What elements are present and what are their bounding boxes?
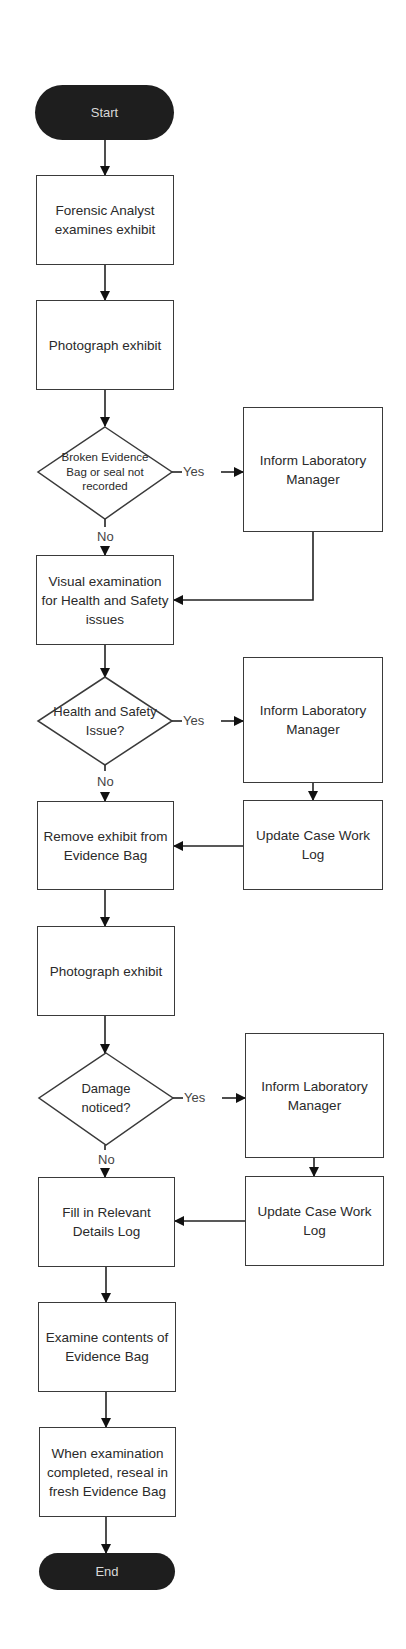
start-terminal: Start [35,85,174,140]
process-examine-exhibit: Forensic Analyst examines exhibit [36,175,174,265]
side-inform-manager-2: Inform Laboratory Manager [243,657,383,783]
no-label-2: No [97,774,114,789]
process-reseal: When examination completed, reseal in fr… [39,1427,176,1517]
process-examine-contents: Examine contents of Evidence Bag [38,1302,176,1392]
side-label: Inform Laboratory Manager [248,451,378,489]
end-label: End [95,1562,118,1581]
no-label-1: No [97,529,114,544]
process-label: Photograph exhibit [50,962,163,981]
arrow-s1-to-p3 [174,532,313,600]
process-label: Forensic Analyst examines exhibit [41,201,169,239]
decision-label-1: Broken Evidence Bag or seal not recorded [50,437,160,507]
side-label: Inform Laboratory Manager [248,701,378,739]
end-terminal: End [39,1553,175,1590]
process-photograph-exhibit-1: Photograph exhibit [36,300,174,390]
process-remove-exhibit: Remove exhibit from Evidence Bag [37,801,174,890]
side-label: Update Case Work Log [248,826,378,864]
side-inform-manager-3: Inform Laboratory Manager [245,1033,384,1158]
process-label: Visual examination for Health and Safety… [41,572,169,629]
process-label: Fill in Relevant Details Log [43,1203,170,1241]
yes-label-1: Yes [183,464,204,479]
process-visual-examination: Visual examination for Health and Safety… [36,555,174,645]
yes-label-3: Yes [184,1090,205,1105]
side-label: Update Case Work Log [250,1202,379,1240]
side-inform-manager-1: Inform Laboratory Manager [243,407,383,532]
process-label: Photograph exhibit [49,336,162,355]
yes-label-2: Yes [183,713,204,728]
no-label-3: No [98,1152,115,1167]
side-update-case-log-1: Update Case Work Log [243,800,383,890]
process-label: Examine contents of Evidence Bag [43,1328,171,1366]
process-fill-details-log: Fill in Relevant Details Log [38,1177,175,1267]
decision-label-3: Damage noticed? [58,1068,154,1128]
side-update-case-log-2: Update Case Work Log [245,1176,384,1266]
start-label: Start [91,103,118,122]
process-label: When examination completed, reseal in fr… [44,1444,171,1501]
process-label: Remove exhibit from Evidence Bag [42,827,169,865]
decision-label-2: Health and Safety Issue? [48,690,162,752]
process-photograph-exhibit-2: Photograph exhibit [37,926,175,1016]
side-label: Inform Laboratory Manager [250,1077,379,1115]
